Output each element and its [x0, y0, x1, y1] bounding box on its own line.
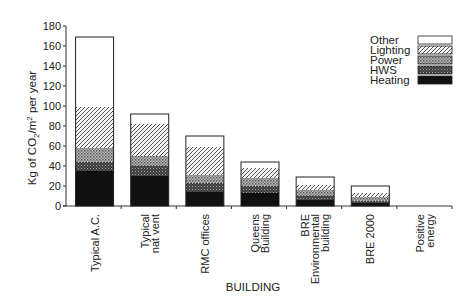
category-label: building — [319, 214, 331, 252]
y-tick-label: 80 — [49, 120, 61, 132]
segment-power — [131, 156, 169, 166]
bar-typical-nat-vent — [131, 114, 169, 206]
stacked-bar-chart: 020406080100120140160180 Typical A.C.Typ… — [0, 0, 476, 302]
legend-item-heating: Heating — [370, 74, 452, 86]
segment-heating — [241, 193, 279, 206]
category-label: Typical A.C. — [89, 214, 101, 272]
y-tick-label: 100 — [43, 100, 61, 112]
bar-queens-building — [241, 162, 279, 206]
y-tick-label: 140 — [43, 60, 61, 72]
bar-rmc-offices — [186, 136, 224, 206]
segment-hws — [351, 201, 389, 203]
segment-power — [76, 148, 114, 162]
category-label: BRE 2000 — [364, 214, 376, 264]
segment-power — [296, 190, 334, 196]
legend: OtherLightingPowerHWSHeating — [370, 34, 452, 86]
y-tick-label: 120 — [43, 80, 61, 92]
category-label: RMC offices — [199, 214, 211, 274]
legend-swatch — [418, 36, 452, 44]
segment-lighting — [76, 107, 114, 148]
segment-heating — [186, 192, 224, 206]
category-labels: Typical A.C.Typicalnat ventRMC officesQu… — [89, 214, 437, 285]
segment-lighting — [351, 193, 389, 197]
legend-swatch — [418, 76, 452, 84]
y-tick-label: 160 — [43, 40, 61, 52]
segment-hws — [131, 166, 169, 176]
segment-other — [76, 37, 114, 107]
y-tick-label: 0 — [55, 200, 61, 212]
y-tick-label: 20 — [49, 180, 61, 192]
segment-other — [351, 186, 389, 193]
category-label: Building — [259, 214, 271, 253]
segment-lighting — [241, 168, 279, 178]
segment-other — [131, 114, 169, 124]
y-axis: 020406080100120140160180 — [43, 20, 66, 212]
x-axis-title: BUILDING — [226, 281, 280, 293]
svg-text:Heating: Heating — [370, 74, 410, 86]
legend-swatch — [418, 46, 452, 54]
segment-other — [296, 177, 334, 185]
segment-power — [241, 178, 279, 186]
segment-heating — [76, 171, 114, 206]
segment-heating — [131, 176, 169, 206]
bar-bre-environmental-building — [296, 177, 334, 206]
legend-swatch — [418, 56, 452, 64]
segment-lighting — [131, 124, 169, 156]
category-label: nat vent — [149, 214, 161, 253]
segment-hws — [76, 162, 114, 171]
segment-hws — [186, 183, 224, 192]
segment-lighting — [296, 185, 334, 190]
bar-bre-2000 — [351, 186, 389, 206]
bars — [76, 37, 390, 206]
segment-other — [186, 136, 224, 147]
y-axis-title: Kg of CO2/m2 per year — [25, 71, 41, 186]
segment-other — [241, 162, 279, 168]
segment-power — [351, 197, 389, 201]
y-tick-label: 180 — [43, 20, 61, 32]
segment-lighting — [186, 147, 224, 175]
legend-swatch — [418, 66, 452, 74]
segment-hws — [241, 186, 279, 193]
bar-typical-a-c- — [76, 37, 114, 206]
segment-heating — [296, 200, 334, 206]
y-tick-label: 60 — [49, 140, 61, 152]
segment-power — [186, 175, 224, 183]
category-label: energy — [424, 214, 436, 248]
y-tick-label: 40 — [49, 160, 61, 172]
segment-hws — [296, 196, 334, 200]
